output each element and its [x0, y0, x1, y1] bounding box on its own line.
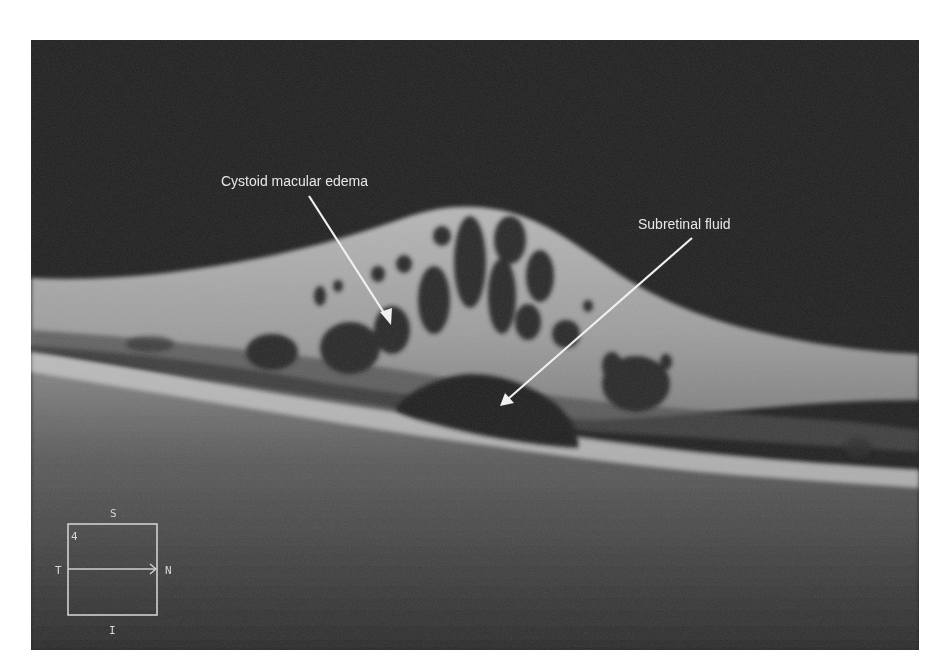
- orientation-superior: S: [110, 507, 117, 520]
- scan-number: 4: [71, 530, 78, 543]
- annotation-label: Cystoid macular edema: [221, 173, 368, 189]
- oct-scan-image: Cystoid macular edema Subretinal fluid S…: [0, 0, 946, 672]
- orientation-inferior: I: [109, 624, 116, 637]
- orientation-nasal: N: [165, 564, 172, 577]
- orientation-temporal: T: [55, 564, 62, 577]
- annotation-label: Subretinal fluid: [638, 216, 731, 232]
